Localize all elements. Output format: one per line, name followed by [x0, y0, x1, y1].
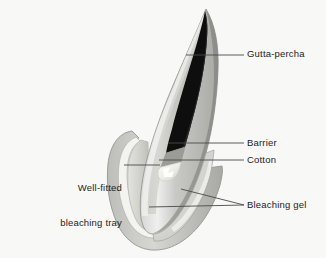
label-tray-line-1: Well-fitted	[26, 182, 122, 194]
label-bleaching-gel: Bleaching gel	[247, 199, 307, 211]
label-gutta-percha: Gutta-percha	[247, 48, 305, 60]
label-barrier: Barrier	[247, 137, 277, 149]
label-cotton: Cotton	[247, 154, 276, 166]
dental-bleaching-figure: Gutta-percha Barrier Cotton Bleaching ge…	[0, 0, 326, 258]
label-well-fitted-bleaching-tray: Well-fitted bleaching tray	[26, 159, 122, 251]
label-tray-line-2: bleaching tray	[26, 217, 122, 229]
